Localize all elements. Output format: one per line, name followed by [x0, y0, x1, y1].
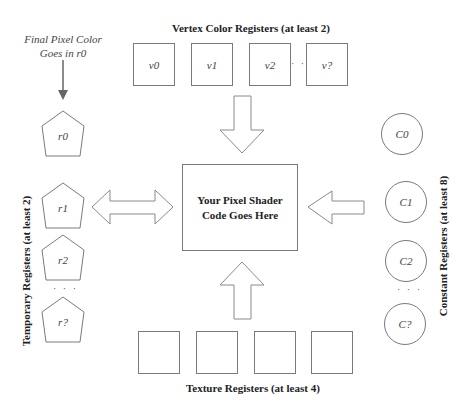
texture-registers-heading: Texture Registers (at least 4)	[186, 382, 320, 394]
arrow-temporary-shader-bidirectional	[92, 190, 173, 224]
final-pixel-note-line1: Final Pixel Color	[15, 32, 111, 46]
pixel-shader-code-box: Your Pixel Shader Code Goes Here	[182, 164, 298, 251]
temporary-register-r1-label: r1	[42, 202, 84, 214]
arrow-down-to-r0	[58, 60, 68, 100]
arrow-texture-to-shader	[220, 262, 264, 319]
temporary-registers-heading: Temporary Registers (at least 2)	[20, 181, 32, 361]
register-label: C0	[396, 128, 409, 140]
register-label: v0	[149, 59, 159, 71]
constant-register-c1: C1	[385, 181, 427, 223]
final-pixel-note-line2: Goes in r0	[15, 46, 111, 60]
register-label: C?	[399, 318, 412, 330]
temporary-ellipsis: · · ·	[53, 283, 78, 294]
constant-register-c0: C0	[381, 113, 423, 155]
texture-register-1	[196, 331, 238, 374]
vertex-register-v0: v0	[133, 43, 175, 86]
temporary-register-r0-label: r0	[42, 130, 84, 142]
register-label: C1	[400, 196, 413, 208]
register-label: v2	[265, 59, 275, 71]
register-label: C2	[400, 255, 413, 267]
shader-box-line1: Your Pixel Shader	[197, 193, 282, 208]
temporary-register-r-unknown-label: r?	[42, 316, 84, 328]
constant-registers-heading: Constant Registers (at least 8)	[437, 156, 449, 336]
constant-ellipsis: · · ·	[397, 284, 422, 295]
texture-register-2	[254, 331, 296, 374]
arrow-vertex-to-shader	[220, 96, 264, 153]
shader-box-line2: Code Goes Here	[202, 208, 278, 223]
texture-register-0	[138, 331, 180, 374]
temporary-register-r2-label: r2	[42, 254, 84, 266]
vertex-registers-heading: Vertex Color Registers (at least 2)	[172, 22, 330, 34]
arrow-constant-to-shader	[308, 191, 364, 224]
constant-register-c2: C2	[385, 240, 427, 282]
vertex-register-v-unknown: v?	[306, 43, 348, 86]
constant-register-c-unknown: C?	[384, 303, 426, 345]
final-pixel-note: Final Pixel Color Goes in r0	[15, 32, 111, 60]
register-label: v?	[322, 59, 332, 71]
register-label: v1	[207, 59, 217, 71]
texture-register-3	[311, 331, 353, 374]
vertex-register-v2: v2	[249, 43, 291, 86]
vertex-register-v1: v1	[191, 43, 233, 86]
